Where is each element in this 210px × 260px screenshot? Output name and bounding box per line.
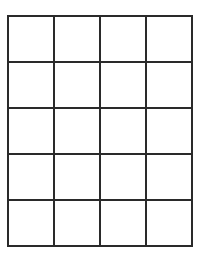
grid-cell-r1-c3 [101,17,147,63]
grid-cell-r2-c4 [147,63,193,109]
grid-cell-r1-c4 [147,17,193,63]
canvas [0,0,210,260]
grid-cell-r4-c2 [55,155,101,201]
grid-cell-r3-c3 [101,109,147,155]
grid-cell-r4-c3 [101,155,147,201]
grid-cell-r4-c1 [9,155,55,201]
grid-cell-r5-c2 [55,201,101,247]
grid-cell-r2-c2 [55,63,101,109]
grid-cell-r5-c3 [101,201,147,247]
empty-grid [7,15,193,247]
grid-cell-r4-c4 [147,155,193,201]
grid-cell-r5-c4 [147,201,193,247]
grid-cell-r5-c1 [9,201,55,247]
grid-cell-r2-c1 [9,63,55,109]
grid-cell-r3-c1 [9,109,55,155]
grid-cell-r3-c4 [147,109,193,155]
grid-cell-r2-c3 [101,63,147,109]
grid-cell-r3-c2 [55,109,101,155]
grid-cell-r1-c2 [55,17,101,63]
grid-cell-r1-c1 [9,17,55,63]
